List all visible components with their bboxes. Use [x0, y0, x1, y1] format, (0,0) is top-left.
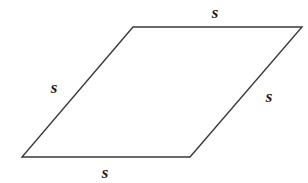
side-label-right: s [266, 88, 273, 105]
side-label-bottom: s [102, 164, 109, 181]
rhombus-shape-layer [0, 0, 308, 183]
side-label-top: s [212, 4, 219, 21]
rhombus-figure: s s s s [0, 0, 308, 183]
rhombus-outline [22, 27, 302, 157]
side-label-left: s [51, 79, 58, 96]
